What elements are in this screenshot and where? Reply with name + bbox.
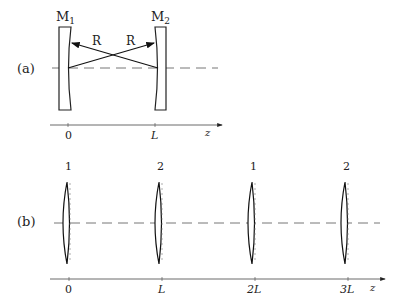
- panel-a: (a) M1 M2 R R 0 L z: [17, 9, 222, 142]
- tick-label-0: 0: [65, 283, 72, 296]
- panel-b-label: (b): [17, 214, 35, 229]
- svg-text:1: 1: [250, 160, 257, 173]
- lens-1: 1: [63, 160, 72, 264]
- tick-label-2L: 2L: [246, 283, 261, 296]
- radius-label-left: R: [92, 34, 102, 48]
- lens-2: 2: [155, 160, 164, 264]
- svg-text:2: 2: [343, 160, 350, 173]
- svg-text:1: 1: [65, 160, 72, 173]
- tick-label-0: 0: [65, 129, 72, 142]
- z-axis-label: z: [204, 127, 211, 138]
- mirror-1: [59, 27, 71, 110]
- radius-arrow-right: [68, 43, 154, 68]
- panel-b: (b) 1 2 1 2 0 L 2L 3L: [17, 160, 385, 296]
- mirror-2-label: M2: [151, 9, 170, 26]
- radius-label-right: R: [126, 34, 136, 48]
- tick-label-L: L: [150, 129, 158, 142]
- tick-label-3L: 3L: [340, 283, 354, 296]
- mirror-1-label: M1: [56, 9, 75, 26]
- z-axis-label: z: [369, 282, 376, 293]
- lens-3: 1: [248, 160, 257, 264]
- tick-label-L: L: [157, 283, 165, 296]
- mirror-2: [155, 27, 166, 110]
- panel-a-label: (a): [17, 61, 35, 76]
- svg-text:2: 2: [157, 160, 164, 173]
- lens-4: 2: [341, 160, 350, 264]
- resonator-diagram: (a) M1 M2 R R 0 L z (b) 1: [0, 0, 397, 299]
- radius-arrow-left: [72, 43, 158, 68]
